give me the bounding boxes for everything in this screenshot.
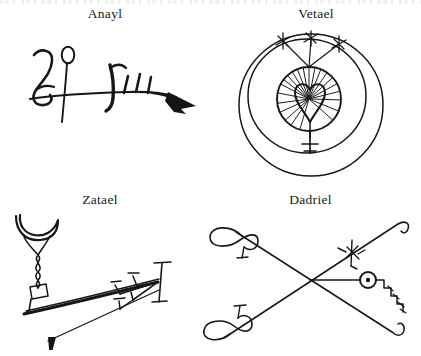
sigil-cell-zatael: Zatael (0, 192, 200, 356)
sigil-cell-anayl: Anayl (0, 6, 210, 186)
sigil-art-anayl (0, 24, 210, 144)
sigil-art-zatael (0, 210, 200, 350)
sigil-cell-dadriel: Dadriel (200, 192, 421, 356)
sigil-art-vetael (211, 20, 421, 188)
sigil-cell-vetael: Vetael (211, 6, 421, 186)
sigil-label-dadriel: Dadriel (200, 192, 421, 208)
cropped-text-row-artifact (0, 0, 421, 4)
sigil-art-dadriel (200, 210, 421, 350)
sigil-plate: Anayl (0, 0, 421, 356)
sigil-label-zatael: Zatael (0, 192, 200, 208)
sigil-label-anayl: Anayl (0, 6, 210, 22)
